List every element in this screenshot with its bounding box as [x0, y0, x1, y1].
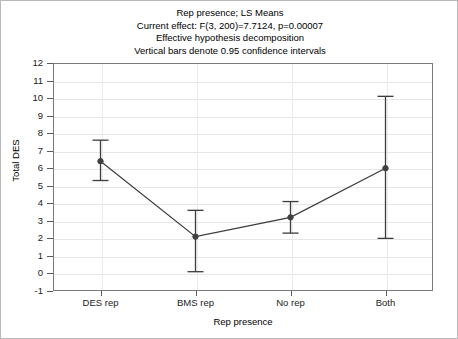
x-tick-mark [386, 291, 387, 296]
y-tick-label: 8 [1, 128, 43, 138]
series-line [101, 161, 386, 236]
y-tick-label: 6 [1, 163, 43, 173]
y-tick-label: 0 [1, 268, 43, 278]
y-tick-label: 12 [1, 58, 43, 68]
x-tick-label: Both [341, 297, 431, 309]
chart-title-line-2: Current effect: F(3, 200)=7.7124, p=0.00… [1, 20, 458, 33]
y-tick-label: 9 [1, 111, 43, 121]
y-tick-label: -1 [1, 286, 43, 296]
chart-title-line-4: Vertical bars denote 0.95 confidence int… [1, 45, 458, 58]
data-point-marker [288, 215, 293, 220]
x-tick-label: DES rep [56, 297, 146, 309]
y-tick-label: 1 [1, 251, 43, 261]
x-tick-mark [291, 291, 292, 296]
y-tick-label: 3 [1, 216, 43, 226]
chart-figure: Rep presence; LS Means Current effect: F… [0, 0, 458, 339]
y-tick-label: 10 [1, 93, 43, 103]
data-point-marker [383, 166, 388, 171]
chart-title-line-3: Effective hypothesis decomposition [1, 32, 458, 45]
y-tick-label: 4 [1, 198, 43, 208]
y-tick-label: 7 [1, 146, 43, 156]
data-point-marker [98, 159, 103, 164]
x-tick-mark [101, 291, 102, 296]
y-tick-label: 11 [1, 76, 43, 86]
x-axis-title: Rep presence [53, 316, 433, 327]
x-tick-mark [196, 291, 197, 296]
data-series-layer [53, 63, 433, 291]
x-tick-label: BMS rep [151, 297, 241, 309]
data-point-marker [193, 234, 198, 239]
chart-title-block: Rep presence; LS Means Current effect: F… [1, 7, 458, 57]
y-tick-label: 5 [1, 181, 43, 191]
x-tick-label: No rep [246, 297, 336, 309]
y-tick-label: 2 [1, 233, 43, 243]
y-tick-mark [47, 291, 53, 292]
chart-title-line-1: Rep presence; LS Means [1, 7, 458, 20]
